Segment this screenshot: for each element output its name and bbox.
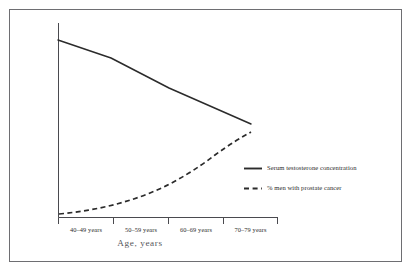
legend-swatches: [244, 169, 262, 189]
legend-label-prostate-cancer: % men with prostate cancer: [267, 185, 342, 192]
series-line-serum-testosterone: [58, 40, 251, 124]
series-line-prostate-cancer: [59, 132, 251, 214]
x-tick-label-50-59: 50–59 years: [113, 227, 169, 233]
chart-plot-area: 40–49 years 50–59 years 60–69 years 70–7…: [10, 10, 403, 263]
x-tick-label-40-49: 40–49 years: [58, 227, 114, 233]
x-tick-label-70-79: 70–79 years: [223, 227, 278, 233]
legend-label-serum-testosterone: Serum testosterone concentration: [267, 165, 357, 172]
figure-frame: 40–49 years 50–59 years 60–69 years 70–7…: [9, 9, 402, 262]
x-tick-label-60-69: 60–69 years: [168, 227, 224, 233]
x-axis-title: Age, years: [10, 238, 270, 248]
x-axis-ticks: [59, 218, 278, 225]
